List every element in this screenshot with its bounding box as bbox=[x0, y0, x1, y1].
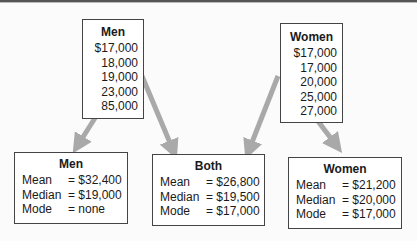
result-title-women: Women bbox=[296, 162, 401, 176]
value: 25,000 bbox=[281, 90, 337, 105]
stat-value: = $19,000 bbox=[68, 188, 122, 203]
value: $17,000 bbox=[83, 41, 138, 56]
stat-value: = $21,200 bbox=[342, 178, 396, 193]
result-title-both: Both bbox=[160, 159, 264, 173]
stat-label: Mode bbox=[22, 202, 68, 217]
arrow-women-to-both bbox=[249, 76, 278, 150]
result-box-men: Men Mean= $32,400 Median= $19,000 Mode= … bbox=[14, 152, 128, 224]
value: 23,000 bbox=[83, 85, 138, 100]
value: 20,000 bbox=[281, 75, 337, 90]
stat-value: = $17,000 bbox=[206, 204, 260, 219]
result-box-women: Women Mean= $21,200 Median= $20,000 Mode… bbox=[288, 157, 402, 229]
value: 17,000 bbox=[281, 61, 337, 76]
stat-label: Mode bbox=[296, 207, 342, 222]
result-box-both: Both Mean= $26,800 Median= $19,500 Mode=… bbox=[152, 154, 265, 226]
stat-label: Median bbox=[22, 188, 68, 203]
stat-value: = $19,500 bbox=[206, 190, 260, 205]
stat-label: Mean bbox=[160, 175, 206, 190]
stat-label: Mean bbox=[22, 173, 68, 188]
stat-value: = none bbox=[68, 202, 105, 217]
stat-value: = $32,400 bbox=[68, 173, 122, 188]
result-title-men: Men bbox=[22, 157, 127, 171]
stat-value: = $17,000 bbox=[342, 207, 396, 222]
value: 85,000 bbox=[83, 99, 138, 114]
stat-label: Mode bbox=[160, 204, 206, 219]
stat-value: = $20,000 bbox=[342, 193, 396, 208]
value: $17,000 bbox=[281, 46, 337, 61]
source-title-men: Men bbox=[83, 25, 143, 39]
arrow-men-to-both bbox=[142, 76, 173, 150]
source-box-women: Women $17,000 17,000 20,000 25,000 27,00… bbox=[280, 23, 343, 123]
value: 19,000 bbox=[83, 70, 138, 85]
stat-label: Median bbox=[296, 193, 342, 208]
source-box-men: Men $17,000 18,000 19,000 23,000 85,000 bbox=[82, 19, 144, 119]
value: 18,000 bbox=[83, 56, 138, 71]
stat-value: = $26,800 bbox=[206, 175, 260, 190]
stat-label: Median bbox=[160, 190, 206, 205]
stat-label: Mean bbox=[296, 178, 342, 193]
source-title-women: Women bbox=[281, 30, 342, 44]
value: 27,000 bbox=[281, 104, 337, 119]
